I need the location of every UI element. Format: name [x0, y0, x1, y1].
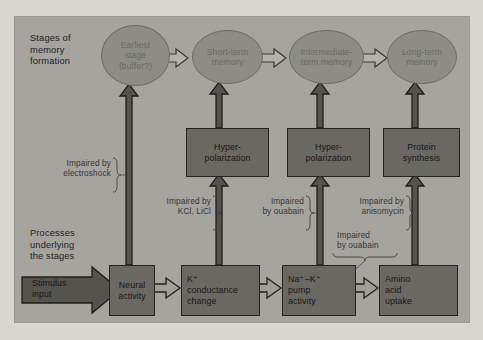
stimulus-input-label: Stimulus input — [32, 278, 67, 300]
brace-ouabain-1 — [306, 196, 318, 230]
stage-earliest[interactable]: Earliest stage (buffer?) — [101, 25, 170, 86]
arrow-hyper2-to-intermediate — [311, 82, 329, 128]
annotation-anisomycin: Impaired by anisomycin — [338, 196, 404, 217]
arrow-protein-to-longterm — [406, 82, 424, 128]
arrow-hyper1-to-shortterm — [210, 82, 228, 128]
row-label-stages: Stages of memory formation — [30, 33, 71, 68]
arrow-neural-to-earliest — [120, 84, 138, 265]
box-amino-acid-uptake[interactable]: Amino acid uptake — [379, 265, 458, 316]
stage-intermediate-term[interactable]: Intermediate- term memory — [289, 30, 364, 84]
stage-long-term[interactable]: Long-term memory — [387, 30, 457, 84]
arrow-napump-to-hyper2 — [311, 174, 329, 265]
row-label-processes: Processes underlying the stages — [30, 228, 75, 263]
annotation-ouabain-2: Impaired by ouabain — [337, 230, 407, 251]
stage-short-term[interactable]: Short-term memory — [192, 30, 263, 84]
arrow-kcond-to-hyper1 — [210, 174, 228, 265]
box-neural-activity[interactable]: Neural activity — [109, 265, 155, 316]
box-protein-synthesis[interactable]: Protein synthesis — [383, 128, 460, 177]
box-hyperpolarization-1[interactable]: Hyper- polarization — [186, 128, 269, 177]
annotation-kcl-licl: Impaired by KCl, LiCl — [147, 196, 211, 217]
box-na-k-pump[interactable]: Na⁺−K⁺ pump activity — [282, 265, 356, 316]
annotation-ouabain-1: Impaired by ouabain — [241, 196, 304, 217]
box-hyperpolarization-2[interactable]: Hyper- polarization — [287, 128, 370, 177]
arrow-amino-to-protein — [406, 174, 424, 265]
figure-root: .hollow{ fill:#a09f99; stroke:#242119; s… — [0, 0, 483, 340]
annotation-electroshock: Impaired by electroshock — [46, 158, 111, 179]
box-k-conductance[interactable]: K⁺ conductance change — [181, 265, 260, 316]
brace-electroshock — [113, 158, 126, 192]
